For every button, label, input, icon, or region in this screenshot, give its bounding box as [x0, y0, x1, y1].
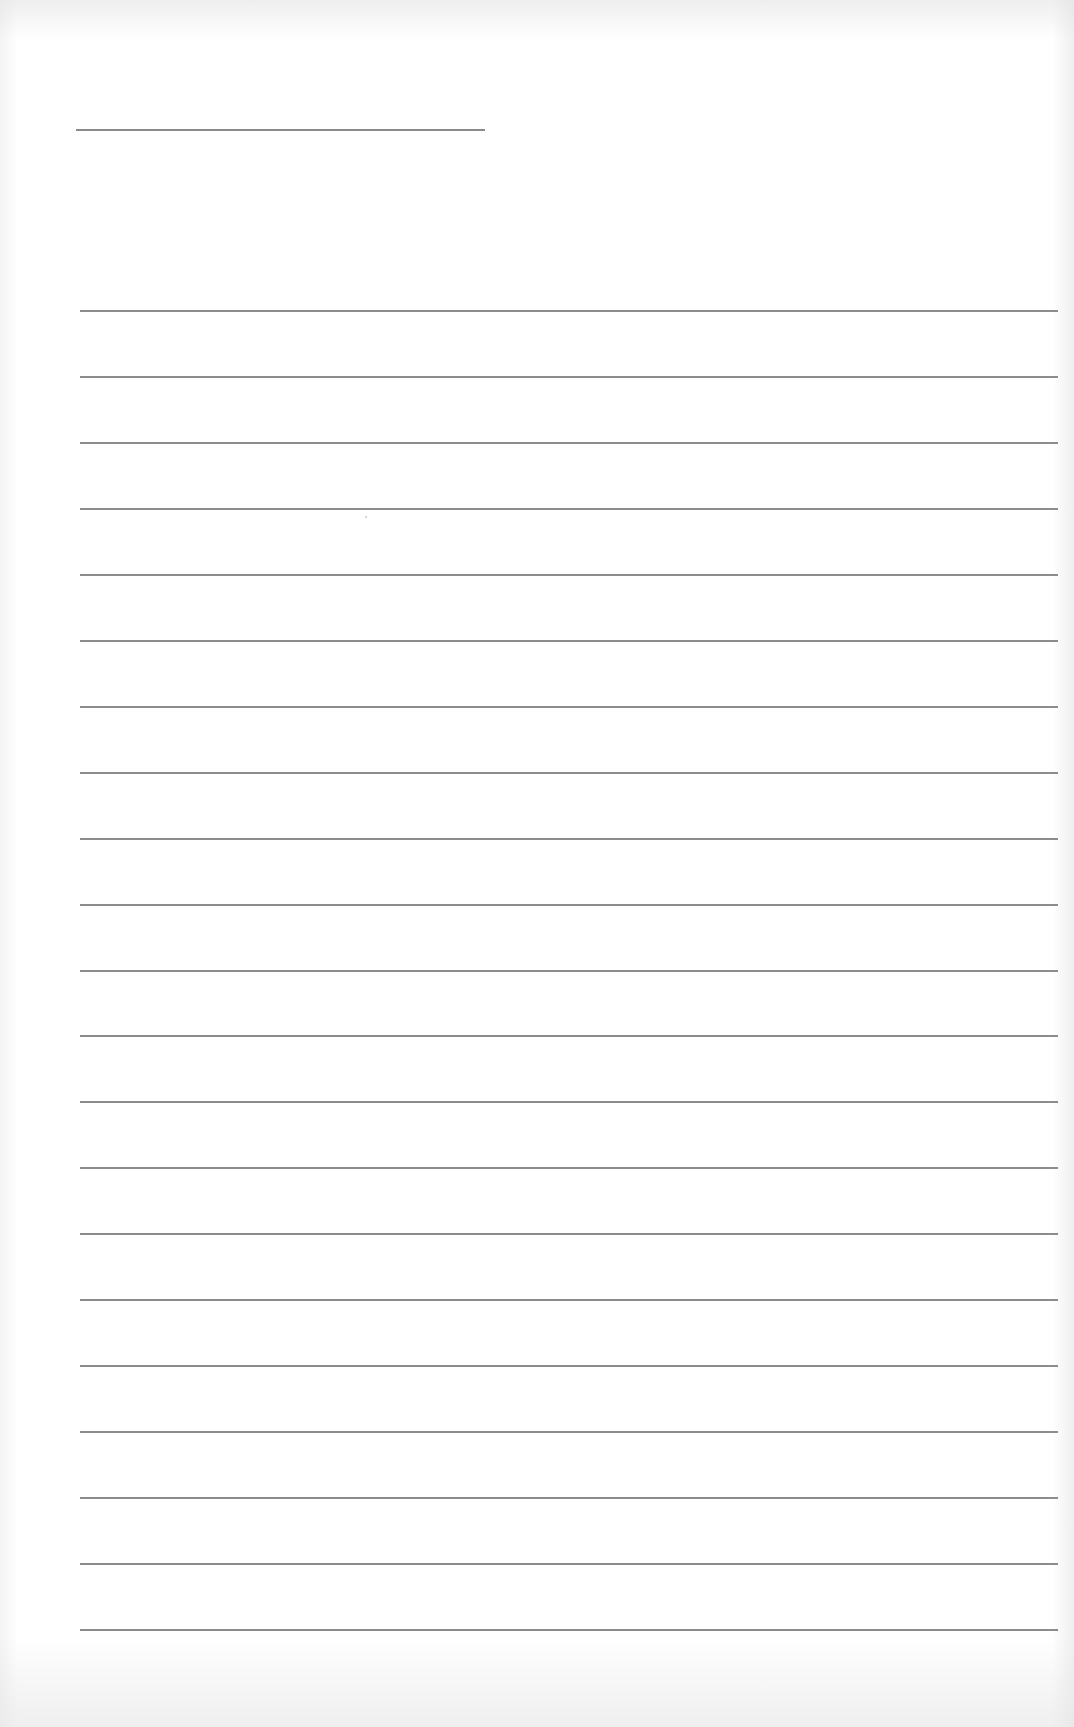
ruled-line: [80, 904, 1058, 906]
ruled-line: [80, 376, 1058, 378]
ruled-line: [80, 1035, 1058, 1037]
ruled-line: [80, 574, 1058, 576]
ruled-line: [80, 1101, 1058, 1103]
ruled-line: [80, 1629, 1058, 1631]
ruled-line: [80, 1167, 1058, 1169]
ruled-line: [80, 1497, 1058, 1499]
ruled-line: [80, 838, 1058, 840]
ruled-line: [80, 310, 1058, 312]
ruled-line: [80, 772, 1058, 774]
ruled-line: [80, 1299, 1058, 1301]
ruled-line: [80, 970, 1058, 972]
ruled-line: [80, 1431, 1058, 1433]
ruled-line: [80, 706, 1058, 708]
ruled-line: [80, 442, 1058, 444]
ruled-line: [80, 508, 1058, 510]
ruled-line: [80, 640, 1058, 642]
title-underline: [76, 129, 485, 131]
lined-paper-page: [0, 0, 1074, 1727]
ruled-line: [80, 1563, 1058, 1565]
paper-speck: [365, 516, 367, 518]
ruled-line: [80, 1233, 1058, 1235]
ruled-line: [80, 1365, 1058, 1367]
